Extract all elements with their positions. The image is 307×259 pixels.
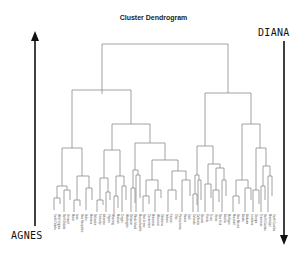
leaf-label: Rhode Island: [133, 214, 137, 230]
leaf-label: Connecticut: [147, 214, 151, 228]
leaf-label: Texas: [209, 214, 213, 221]
leaf-label: Alaska: [241, 214, 245, 222]
arrow-up-icon: [31, 31, 39, 226]
leaf-labels: South DakotaWest VirginiaNorth DakotaVer…: [53, 214, 276, 233]
leaf-label: Maryland: [232, 214, 236, 225]
leaf-label: Alabama: [245, 214, 249, 225]
leaf-label: Mississippi: [268, 214, 272, 227]
leaf-label: Arkansas: [102, 214, 106, 226]
leaf-label: Indiana: [165, 214, 169, 223]
leaf-label: West Virginia: [57, 214, 61, 230]
leaf-label: Delaware: [129, 214, 133, 226]
leaf-label: Michigan: [227, 214, 231, 225]
leaf-label: New Jersey: [142, 214, 146, 228]
leaf-label: Idaho: [84, 214, 88, 221]
leaf-label: Hawaii: [183, 214, 187, 222]
leaf-label: Maine: [71, 214, 75, 222]
leaf-label: Vermont: [66, 214, 70, 224]
leaf-label: Tennessee: [259, 214, 263, 227]
leaf-label: Ohio: [174, 214, 178, 220]
leaf-label: Oklahoma: [160, 214, 164, 226]
leaf-label: North Dakota: [62, 214, 66, 230]
leaf-label: Florida: [205, 214, 209, 222]
leaf-label: New Hampshire: [80, 214, 84, 233]
leaf-label: Missouri: [116, 214, 120, 224]
leaf-label: Oregon: [120, 214, 124, 223]
leaf-label: North Carolina: [263, 214, 267, 231]
leaf-label: Utah: [187, 214, 191, 220]
leaf-label: Virginia: [107, 214, 111, 223]
leaf-label: South Dakota: [53, 214, 57, 230]
dendrogram-tree: [54, 44, 272, 214]
leaf-label: Wisconsin: [156, 214, 160, 226]
leaf-label: Montana: [89, 214, 93, 225]
leaf-label: Louisiana: [250, 214, 254, 226]
leaf-label: Arizona: [223, 214, 227, 223]
leaf-label: Nevada: [200, 214, 204, 223]
leaf-label: South Carolina: [272, 214, 276, 232]
leaf-label: Georgia: [254, 214, 258, 224]
leaf-label: Iowa: [75, 214, 79, 220]
leaf-label: Kentucky: [98, 214, 102, 225]
leaf-label: Illinois: [214, 214, 218, 222]
leaf-label: Pennsylvania: [178, 214, 182, 230]
leaf-label: Wyoming: [111, 214, 115, 225]
leaf-label: Nebraska: [93, 214, 97, 226]
leaf-label: New York: [218, 214, 222, 226]
leaf-label: Kansas: [169, 214, 173, 223]
leaf-label: Colorado: [192, 214, 196, 225]
leaf-label: Minnesota: [151, 214, 155, 227]
leaf-label: Massachusetts: [138, 214, 142, 232]
leaf-label: Washington: [125, 214, 129, 228]
leaf-label: California: [196, 214, 200, 226]
arrow-down-icon: [280, 41, 288, 245]
dendrogram-canvas: South DakotaWest VirginiaNorth DakotaVer…: [0, 0, 307, 259]
leaf-label: New Mexico: [236, 214, 240, 229]
